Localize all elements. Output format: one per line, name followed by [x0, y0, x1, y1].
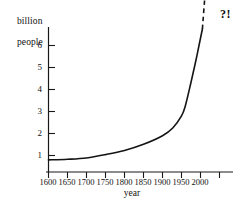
population-growth-chart: billion people ?! 6 5 4 3 2 1 1600 1650 … [0, 0, 248, 212]
y-tick-marks [49, 46, 56, 156]
population-curve [49, 29, 203, 160]
chart-plot-area [0, 0, 248, 212]
x-tick-marks [49, 172, 220, 178]
population-extrapolation-curve [202, 0, 205, 29]
